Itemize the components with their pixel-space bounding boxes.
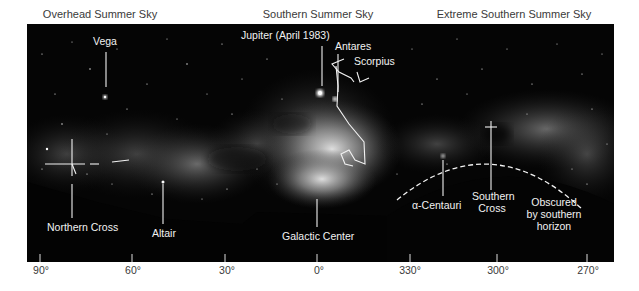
label-altair: Altair — [152, 227, 176, 239]
label-obscured: Obscured by southern horizon — [526, 196, 582, 232]
section-title-overhead: Overhead Summer Sky — [43, 8, 157, 20]
label-northern-cross: Northern Cross — [47, 221, 118, 233]
label-antares: Antares — [335, 40, 371, 52]
section-title-extreme-southern: Extreme Southern Summer Sky — [437, 8, 592, 20]
tick-label-60: 60° — [125, 264, 141, 276]
label-jupiter: Jupiter (April 1983) — [241, 29, 330, 41]
alpha-centauri-star — [441, 154, 445, 158]
tick-label-270: 270° — [577, 264, 599, 276]
tick-label-30: 30° — [219, 264, 235, 276]
label-galactic-center: Galactic Center — [282, 230, 354, 242]
label-vega: Vega — [93, 35, 117, 47]
tick-label-300: 300° — [487, 264, 509, 276]
label-alpha-centauri: α-Centauri — [412, 199, 461, 211]
tick-label-0: 0° — [314, 264, 324, 276]
milky-way-panorama: Vega Jupiter (April 1983) Antares Scorpi… — [27, 24, 614, 262]
label-southern-cross: Southern Cross — [472, 190, 512, 214]
tick-label-90: 90° — [33, 264, 49, 276]
label-scorpius: Scorpius — [354, 55, 395, 67]
altair-star — [162, 181, 165, 184]
section-title-southern: Southern Summer Sky — [263, 8, 374, 20]
tick-label-330: 330° — [399, 264, 421, 276]
